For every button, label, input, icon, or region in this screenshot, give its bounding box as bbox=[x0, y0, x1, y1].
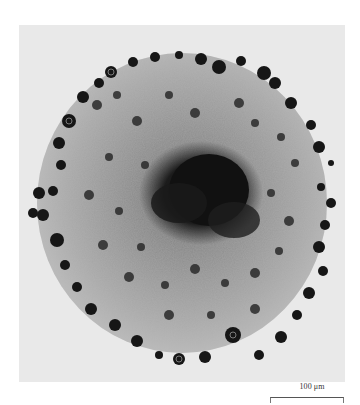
figure: 100 μm bbox=[0, 0, 360, 405]
scale-bar-label: 100 μm bbox=[292, 382, 332, 391]
scale-bar bbox=[270, 397, 344, 403]
micrograph-image bbox=[19, 25, 345, 382]
spheroid-illustration bbox=[19, 25, 345, 382]
